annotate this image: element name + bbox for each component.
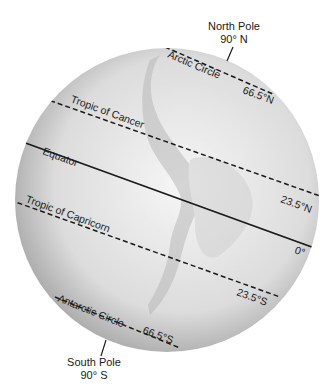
north-pole-latitude: 90° N [220, 33, 248, 45]
south-pole-leader [101, 340, 106, 356]
north-pole-leader [227, 47, 233, 61]
south-pole-latitude: 90° S [80, 369, 107, 381]
globe-diagram: North Pole 90° N South Pole 90° S Arctic… [0, 0, 331, 387]
south-pole-label: South Pole [67, 356, 121, 368]
north-pole-label: North Pole [208, 20, 260, 32]
